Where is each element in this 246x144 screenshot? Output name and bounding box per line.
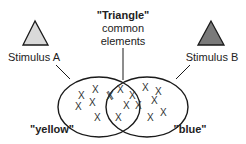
- stimulus-b-triangle-icon: [198, 21, 224, 45]
- stimulus-a-pointer-line: [56, 65, 70, 79]
- stimulus-a-triangle-icon: [23, 21, 48, 45]
- element-x: X: [89, 97, 96, 108]
- element-x: X: [142, 82, 149, 93]
- element-x: X: [75, 101, 82, 112]
- element-x: X: [107, 90, 114, 101]
- stimulus-b-label: Stimulus B: [186, 51, 239, 63]
- stimulus-a-label: Stimulus A: [8, 51, 61, 63]
- element-x: X: [78, 90, 85, 101]
- blue-set-label: "blue": [173, 123, 206, 135]
- blue-unique-elements: X X X X X X: [135, 82, 167, 123]
- intersection-elements: X X X X X: [107, 84, 136, 123]
- center-subtitle-line-1: common: [102, 22, 144, 34]
- center-subtitle-line-2: elements: [101, 35, 146, 47]
- yellow-set-label: "yellow": [30, 123, 74, 135]
- element-x: X: [92, 84, 99, 95]
- element-x: X: [94, 112, 101, 123]
- venn-diagram: Stimulus A Stimulus B "Triangle" common …: [0, 0, 246, 144]
- element-x: X: [151, 95, 158, 106]
- element-x: X: [160, 107, 167, 118]
- element-x: X: [135, 100, 142, 111]
- center-title: "Triangle": [97, 9, 150, 21]
- stimulus-b-pointer-line: [176, 65, 190, 79]
- element-x: X: [123, 100, 130, 111]
- element-x: X: [147, 112, 154, 123]
- element-x: X: [115, 112, 122, 123]
- element-x: X: [117, 84, 124, 95]
